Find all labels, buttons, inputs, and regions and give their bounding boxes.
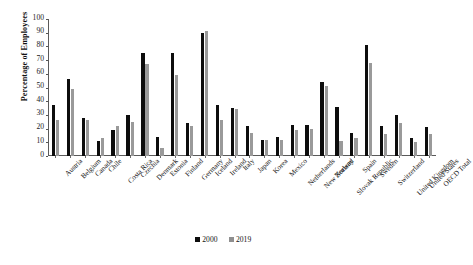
bar-2019 <box>131 122 134 156</box>
bar-2000 <box>186 123 189 156</box>
bar-2000 <box>276 137 279 156</box>
bar-group <box>78 19 93 156</box>
legend-swatch-icon <box>195 237 200 242</box>
y-tick-label: 30 <box>36 109 44 117</box>
bar-2000 <box>350 133 353 156</box>
bar-2019 <box>205 31 208 156</box>
bar-2019 <box>399 123 402 156</box>
x-tick-mark <box>309 156 310 159</box>
bar-2019 <box>71 89 74 156</box>
bar-2019 <box>265 140 268 156</box>
bar-2000 <box>216 105 219 156</box>
bar-2000 <box>246 126 249 156</box>
x-tick-mark <box>324 156 325 159</box>
bar-group <box>376 19 391 156</box>
bar-group <box>48 19 63 156</box>
bar-group <box>346 19 361 156</box>
legend-item: 2019 <box>229 236 252 244</box>
bar-2019 <box>310 129 313 156</box>
bar-group <box>197 19 212 156</box>
x-tick-mark <box>279 156 280 159</box>
bar-2000 <box>425 127 428 156</box>
bar-2019 <box>354 138 357 156</box>
bar-group <box>93 19 108 156</box>
x-tick-mark <box>205 156 206 159</box>
bar-2000 <box>231 108 234 156</box>
bar-group <box>167 19 182 156</box>
bar-group <box>332 19 347 156</box>
legend-label: 2000 <box>202 236 217 244</box>
y-tick-label: 50 <box>36 82 44 90</box>
bar-2019 <box>339 141 342 156</box>
x-tick-mark <box>190 156 191 159</box>
bar-group <box>391 19 406 156</box>
y-tick-label: 10 <box>36 137 44 145</box>
bar-2000 <box>365 45 368 156</box>
bar-2019 <box>295 130 298 156</box>
bar-group <box>212 19 227 156</box>
bar-2000 <box>320 82 323 156</box>
x-tick-mark <box>100 156 101 159</box>
x-tick-mark <box>70 156 71 159</box>
x-axis-labels: AustriaBelgiumCanadaChileCosta RicaCzech… <box>48 158 436 220</box>
x-tick-mark <box>160 156 161 159</box>
x-axis-label: Mexico <box>289 158 310 179</box>
legend-item: 2000 <box>195 236 218 244</box>
x-tick-mark <box>264 156 265 159</box>
bar-group <box>317 19 332 156</box>
y-tick-mark <box>46 156 49 157</box>
bar-group <box>182 19 197 156</box>
bar-2019 <box>220 120 223 156</box>
x-tick-mark <box>399 156 400 159</box>
legend-label: 2019 <box>236 236 251 244</box>
x-tick-mark <box>175 156 176 159</box>
bar-2000 <box>171 53 174 156</box>
bar-2000 <box>201 33 204 156</box>
bar-2019 <box>235 109 238 156</box>
bar-group <box>421 19 436 156</box>
y-tick-label: 100 <box>33 14 44 22</box>
x-tick-mark <box>384 156 385 159</box>
x-tick-mark <box>429 156 430 159</box>
bar-group <box>108 19 123 156</box>
bar-2000 <box>261 140 264 156</box>
x-tick-mark <box>85 156 86 159</box>
bar-group <box>227 19 242 156</box>
bar-2019 <box>86 120 89 156</box>
y-tick-label: 60 <box>36 68 44 76</box>
x-tick-mark <box>414 156 415 159</box>
bar-2000 <box>141 53 144 156</box>
x-axis-label: Sweden <box>379 158 400 179</box>
bar-2000 <box>156 137 159 156</box>
x-axis-label: Switzerland <box>397 158 426 187</box>
bar-2000 <box>291 125 294 157</box>
bar-2019 <box>145 64 148 156</box>
bar-2019 <box>101 138 104 156</box>
x-tick-mark <box>235 156 236 159</box>
bar-group <box>138 19 153 156</box>
bar-2000 <box>335 107 338 156</box>
bar-2000 <box>395 115 398 156</box>
bar-group <box>406 19 421 156</box>
bar-group <box>302 19 317 156</box>
x-tick-mark <box>369 156 370 159</box>
y-tick-label: 40 <box>36 96 44 104</box>
bar-2019 <box>116 126 119 156</box>
bar-2019 <box>250 133 253 156</box>
chart-legend: 20002019 <box>0 236 446 244</box>
bar-group <box>63 19 78 156</box>
x-tick-mark <box>55 156 56 159</box>
bar-2019 <box>190 126 193 156</box>
bars-layer <box>48 19 436 156</box>
bar-2019 <box>384 134 387 156</box>
bar-group <box>152 19 167 156</box>
y-tick-label: 0 <box>40 151 44 159</box>
x-axis-label: Japan <box>257 158 274 175</box>
bar-2000 <box>380 126 383 156</box>
bar-group <box>123 19 138 156</box>
x-tick-mark <box>249 156 250 159</box>
bar-2000 <box>82 118 85 156</box>
bar-2019 <box>429 134 432 156</box>
bar-2000 <box>52 105 55 156</box>
